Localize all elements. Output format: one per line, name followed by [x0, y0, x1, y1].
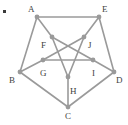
node-label-I: I	[92, 69, 95, 78]
graph-edge-A-F	[37, 17, 52, 37]
node-label-C: C	[65, 112, 71, 121]
petersen-graph-svg	[0, 0, 128, 125]
graph-edge-H-F	[52, 37, 68, 77]
graph-node-A	[35, 15, 40, 20]
graph-node-H	[66, 75, 71, 80]
graph-figure: AEDCBFJIHG	[0, 0, 128, 125]
graph-node-C	[66, 105, 71, 110]
graph-node-I	[91, 58, 96, 63]
graph-edge-J-H	[68, 37, 84, 77]
graph-node-G	[41, 58, 46, 63]
graph-edge-F-I	[52, 37, 93, 60]
node-label-A: A	[28, 5, 35, 14]
node-label-J: J	[88, 41, 92, 50]
node-label-F: F	[41, 41, 46, 50]
node-label-G: G	[40, 69, 47, 78]
graph-node-B	[18, 70, 23, 75]
node-label-E: E	[102, 5, 108, 14]
graph-edge-G-J	[43, 37, 84, 60]
graph-node-E	[97, 15, 102, 20]
graph-node-F	[50, 35, 55, 40]
edge-layer	[20, 17, 114, 107]
graph-node-D	[112, 70, 117, 75]
graph-edge-E-D	[99, 17, 114, 72]
node-label-B: B	[9, 76, 15, 85]
node-label-H: H	[70, 87, 77, 96]
node-label-D: D	[116, 76, 123, 85]
graph-node-J	[82, 35, 87, 40]
graph-edge-E-J	[84, 17, 99, 37]
